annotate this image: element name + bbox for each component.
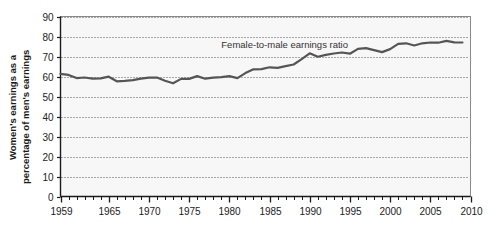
x-tick-label-1990: 1990 (299, 206, 322, 217)
y-tick-label-40: 40 (42, 112, 54, 123)
x-tick-label-1995: 1995 (339, 206, 362, 217)
y-tick-label-30: 30 (42, 132, 54, 143)
y-tick-label-60: 60 (42, 72, 54, 83)
x-tick-label-1980: 1980 (218, 206, 241, 217)
earnings-ratio-line-chart: 0102030405060708090 19591965197019751980… (0, 0, 497, 227)
x-tick-label-2000: 2000 (379, 206, 402, 217)
chart-container: 0102030405060708090 19591965197019751980… (0, 0, 497, 227)
y-tick-label-20: 20 (42, 152, 54, 163)
x-tick-label-2005: 2005 (419, 206, 442, 217)
x-tick-label-1959: 1959 (50, 206, 73, 217)
y-tick-label-70: 70 (42, 52, 54, 63)
x-tick-label-1975: 1975 (178, 206, 201, 217)
y-axis-title-line1: Women's earnings as a (7, 54, 18, 160)
x-tick-label-1985: 1985 (259, 206, 282, 217)
y-tick-label-90: 90 (42, 12, 54, 23)
x-tick-label-1965: 1965 (98, 206, 121, 217)
x-tick-label-2010: 2010 (460, 206, 483, 217)
y-tick-label-0: 0 (48, 192, 54, 203)
annotation-female-to-male-earnings-ratio: Female-to-male earnings ratio (221, 39, 348, 50)
x-tick-label-1970: 1970 (138, 206, 161, 217)
y-axis-title-line2: percentage of men's earnings (20, 50, 31, 184)
y-tick-label-80: 80 (42, 32, 54, 43)
y-tick-label-10: 10 (42, 172, 54, 183)
y-tick-label-50: 50 (42, 92, 54, 103)
